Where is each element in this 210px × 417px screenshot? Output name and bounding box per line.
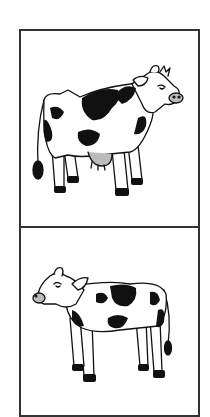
calf-illustration	[21, 228, 198, 413]
adult-cow-illustration	[21, 31, 198, 226]
panel-adult-cow	[21, 31, 198, 226]
panel-calf	[21, 228, 198, 413]
